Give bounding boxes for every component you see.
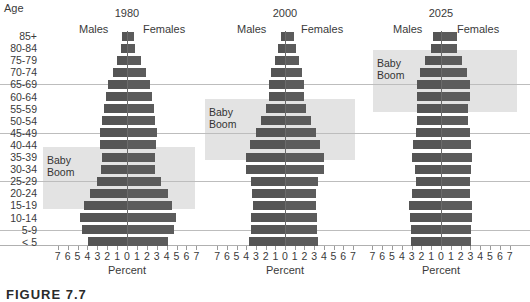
age-group-label: 60-64 [0,91,37,103]
male-bar [102,153,127,162]
male-bar [108,80,127,89]
female-bar [127,92,152,101]
age-group-label: 15-19 [0,199,37,211]
x-tick-label: 7 [349,250,357,262]
age-group-label: 35-39 [0,151,37,163]
x-tick-label: 1 [133,250,141,262]
baby-boom-label: Boom [377,69,404,81]
female-bar [127,104,154,113]
female-bar [127,32,134,41]
female-bar [441,237,471,246]
male-bar [433,32,441,41]
male-bar [417,92,441,101]
x-tick-label: 1 [447,250,455,262]
male-bar [266,104,285,113]
x-tick-label: 5 [330,250,338,262]
female-bar [285,116,311,125]
panel-title: 2025 [411,7,471,19]
x-tick-label: 3 [93,250,101,262]
x-tick-label: 7 [506,250,514,262]
female-bar [441,165,471,174]
male-bar [251,213,285,222]
age-group-label: 65-69 [0,78,37,90]
male-bar [102,116,127,125]
female-bar [127,56,141,65]
male-bar [249,237,285,246]
x-tick-label: 3 [310,250,318,262]
female-bar [285,177,318,186]
female-bar [441,213,472,222]
female-bar [285,104,306,113]
x-tick-label: 5 [233,250,241,262]
baby-boom-label: Baby [377,57,401,69]
female-bar [441,92,470,101]
center-axis [285,31,286,249]
male-bar [417,80,442,89]
female-bar [127,116,155,125]
x-tick-label: 1 [291,250,299,262]
male-bar [251,225,285,234]
female-bar [441,189,470,198]
female-bar [127,213,176,222]
female-bar [127,177,161,186]
x-axis-title: Percent [87,264,167,276]
female-bar [285,80,304,89]
x-tick-label: 4 [242,250,250,262]
female-bar [441,104,468,113]
female-bar [285,213,317,222]
x-tick-label: 4 [476,250,484,262]
baby-boom-label: Baby [209,106,233,118]
figure-caption: FIGURE 7.7 [6,287,87,302]
male-bar [256,128,285,137]
female-bar [127,201,172,210]
center-axis [127,31,128,249]
female-bar [127,128,157,137]
x-tick-label: 3 [408,250,416,262]
male-bar [411,237,441,246]
female-bar [285,189,316,198]
female-bar [441,80,470,89]
male-bar [100,140,127,149]
males-label: Males [79,23,108,35]
male-bar [416,128,441,137]
male-bar [417,104,441,113]
males-label: Males [237,23,266,35]
x-tick-label: 2 [300,250,308,262]
male-bar [251,177,285,186]
male-bar [425,56,441,65]
x-tick-label: 6 [339,250,347,262]
x-tick-label: 5 [486,250,494,262]
male-bar [269,80,285,89]
male-bar [409,201,441,210]
female-bar [285,56,299,65]
x-tick-label: 6 [496,250,504,262]
male-bar [80,213,127,222]
male-bar [278,44,285,53]
female-bar [127,68,146,77]
female-bar [441,32,457,41]
female-bar [441,44,457,53]
x-tick-label: 6 [182,250,190,262]
age-group-label: 25-29 [0,175,37,187]
male-bar [275,56,285,65]
x-tick-label: 7 [192,250,200,262]
x-tick-label: 1 [271,250,279,262]
age-group-label: 30-34 [0,163,37,175]
female-bar [441,128,470,137]
female-bar [127,189,168,198]
female-bar [285,128,316,137]
female-bar [441,225,471,234]
female-bar [127,80,150,89]
female-bar [285,68,302,77]
males-label: Males [393,23,422,35]
female-bar [285,225,317,234]
male-bar [412,153,441,162]
female-bar [127,140,156,149]
male-bar [411,225,441,234]
age-group-label: 85+ [0,30,37,42]
x-tick-label: 6 [223,250,231,262]
female-bar [285,140,320,149]
female-bar [285,153,324,162]
x-tick-label: 3 [153,250,161,262]
female-bar [441,201,472,210]
